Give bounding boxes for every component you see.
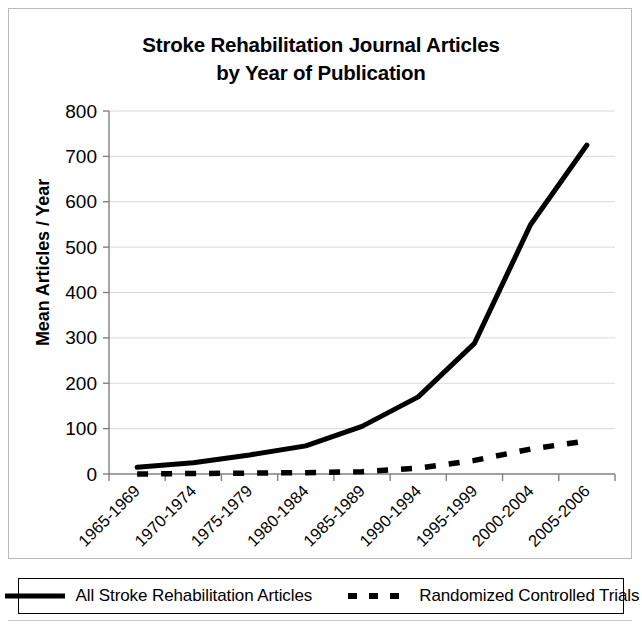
legend-item-all-articles: All Stroke Rehabilitation Articles: [3, 586, 313, 606]
y-tick-label: 200: [65, 373, 97, 394]
y-tick-label: 800: [65, 101, 97, 122]
y-tick-label: 0: [86, 464, 97, 485]
legend-label-all-articles: All Stroke Rehabilitation Articles: [76, 586, 313, 606]
chart-frame: Stroke Rehabilitation Journal Articles b…: [8, 8, 632, 559]
gridlines: [109, 111, 615, 429]
legend-swatch-dashed-icon: [346, 589, 410, 603]
series-line-rct: [137, 441, 587, 474]
x-axis-ticks: [109, 474, 615, 481]
series-line-all-articles: [137, 145, 587, 467]
y-tick-label: 600: [65, 191, 97, 212]
y-axis-ticks: [103, 111, 109, 474]
data-series: [137, 145, 587, 474]
y-tick-label: 700: [65, 146, 97, 167]
y-tick-label: 100: [65, 418, 97, 439]
legend-items: All Stroke Rehabilitation Articles Rando…: [19, 579, 623, 613]
legend-item-rct: Randomized Controlled Trials: [346, 586, 639, 606]
plot-area: 0100200300400500600700800 1965-19691970-…: [9, 9, 633, 560]
chart-screenshot: Stroke Rehabilitation Journal Articles b…: [0, 0, 642, 628]
x-tick-label: 2005-2006: [524, 481, 593, 550]
y-tick-label: 300: [65, 327, 97, 348]
legend-swatch-solid-icon: [3, 589, 67, 603]
y-tick-label: 400: [65, 282, 97, 303]
legend-label-rct: Randomized Controlled Trials: [419, 586, 639, 606]
y-axis-tick-labels: 0100200300400500600700800: [65, 101, 97, 485]
bottom-edge-divider: [8, 620, 632, 621]
y-tick-label: 500: [65, 237, 97, 258]
chart-legend: All Stroke Rehabilitation Articles Rando…: [18, 578, 624, 614]
x-axis-tick-labels: 1965-19691970-19741975-19791980-19841985…: [75, 481, 593, 550]
